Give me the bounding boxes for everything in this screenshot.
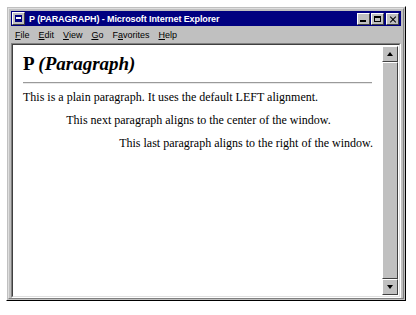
page-heading: P (Paragraph): [23, 53, 374, 75]
paragraph-left: This is a plain paragraph. It uses the d…: [23, 90, 374, 105]
ie-document-icon: [12, 12, 25, 25]
document-viewport: P (Paragraph) This is a plain paragraph.…: [12, 44, 400, 297]
menu-item-help[interactable]: Help: [154, 29, 182, 42]
document-client-area: P (Paragraph) This is a plain paragraph.…: [11, 43, 401, 298]
menu-item-view[interactable]: View: [59, 29, 87, 42]
triangle-up-icon: [387, 52, 393, 56]
scroll-up-button[interactable]: [382, 46, 398, 62]
menu-item-edit[interactable]: Edit: [35, 29, 60, 42]
menu-bar: File Edit View Go Favorites Help: [11, 28, 401, 43]
paragraph-center: This next paragraph aligns to the center…: [23, 113, 374, 128]
horizontal-rule: [23, 82, 372, 84]
paragraph-right: This last paragraph aligns to the right …: [23, 136, 374, 151]
title-bar[interactable]: P (PARAGRAPH) - Microsoft Internet Explo…: [11, 11, 401, 26]
heading-italic-part: (Paragraph): [38, 53, 135, 74]
menu-item-go[interactable]: Go: [87, 29, 108, 42]
window-controls: [357, 13, 399, 25]
window-inner-frame: P (PARAGRAPH) - Microsoft Internet Explo…: [8, 8, 404, 299]
page-body: P (Paragraph) This is a plain paragraph.…: [14, 46, 383, 151]
scrollbar-track[interactable]: [382, 62, 398, 279]
close-button[interactable]: [386, 13, 399, 25]
triangle-down-icon: [387, 285, 393, 289]
window-title: P (PARAGRAPH) - Microsoft Internet Explo…: [29, 14, 357, 24]
maximize-button[interactable]: [371, 13, 384, 25]
heading-plain-part: P: [23, 53, 38, 74]
menu-item-favorites[interactable]: Favorites: [108, 29, 154, 42]
menu-item-file[interactable]: File: [11, 29, 35, 42]
vertical-scrollbar[interactable]: [382, 46, 398, 295]
scrollbar-thumb[interactable]: [382, 62, 398, 279]
web-page: P (Paragraph) This is a plain paragraph.…: [14, 46, 383, 295]
browser-window: P (PARAGRAPH) - Microsoft Internet Explo…: [6, 6, 406, 301]
minimize-button[interactable]: [357, 13, 370, 25]
scroll-down-button[interactable]: [382, 279, 398, 295]
